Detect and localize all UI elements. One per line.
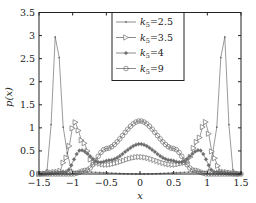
triangle-marker [215,163,220,168]
x-axis-label: x [137,190,143,201]
x-tick-label: −0.5 [95,177,118,188]
dot-marker [188,171,190,173]
dot-marker [180,172,182,174]
y-axis-label: p(x) [3,87,14,107]
dot-marker [95,171,97,173]
dot-marker [91,171,93,173]
dot-marker [184,171,186,173]
y-tick-label: 0.5 [20,145,35,156]
dot-marker [224,36,226,38]
dot-marker [50,124,52,126]
dot-marker [58,57,60,59]
triangle-marker [82,141,87,146]
dot-marker [103,172,105,174]
y-tick-label: 0 [29,168,35,179]
dot-marker [220,57,222,59]
star-marker-lines [204,157,208,161]
x-tick-label: 0.5 [166,177,181,188]
dot-marker [216,126,218,128]
x-tick-label: 1 [204,177,210,188]
line-chart: −1.5−1−0.500.511.5 00.511.522.533.5 x p(… [0,0,256,203]
triangle-marker [194,139,199,144]
triangle-marker [197,135,202,140]
dot-marker [232,169,234,171]
triangle-marker [70,126,75,131]
dot-marker [99,172,101,174]
y-tick-label: 1.5 [20,99,35,110]
y-tick-label: 1 [29,122,35,133]
triangle-marker [212,156,217,161]
x-tick-label: 1.5 [233,177,248,188]
triangle-marker [76,128,81,133]
dot-marker [175,172,177,174]
x-tick-label: 0 [137,177,143,188]
star-marker-lines [72,157,76,161]
y-tick-label: 2.5 [20,53,35,64]
dot-marker [62,126,64,128]
triangle-marker [61,160,66,165]
y-tick-label: 3.5 [20,7,35,18]
dot-marker [54,36,56,38]
y-tick-label: 2 [29,76,35,87]
dot-marker [228,124,230,126]
x-tick-label: −1 [66,177,80,188]
legend: k5=2.5k5=3.5k5=4k5=9 [112,13,184,81]
dot-marker [125,21,127,23]
y-axis-label-text: p(x) [3,87,14,107]
triangle-marker [73,120,78,125]
triangle-marker [200,124,205,129]
series-k5-3-5 [37,119,242,176]
y-tick-label: 3 [29,30,35,41]
